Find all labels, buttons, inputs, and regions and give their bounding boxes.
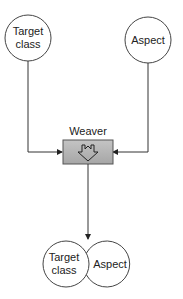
edge-target-to-weaver	[28, 61, 62, 152]
weaving-diagram: Target class Aspect Weaver Target class …	[0, 0, 183, 299]
target-class-label-line1: Target	[13, 25, 44, 37]
aspect-label: Aspect	[131, 34, 165, 46]
weaver-label: Weaver	[69, 125, 107, 137]
result-target-class-line2: class	[51, 264, 77, 276]
result-aspect-label: Aspect	[93, 258, 127, 270]
edge-aspect-to-weaver	[113, 63, 148, 152]
weaver-node	[63, 140, 113, 164]
target-class-node: Target class	[5, 15, 51, 61]
result-aspect-node: Aspect	[87, 241, 130, 287]
result-target-class-node: Target class	[43, 241, 89, 287]
result-target-class-line1: Target	[49, 251, 80, 263]
target-class-label-line2: class	[15, 38, 41, 50]
aspect-node: Aspect	[125, 17, 171, 63]
